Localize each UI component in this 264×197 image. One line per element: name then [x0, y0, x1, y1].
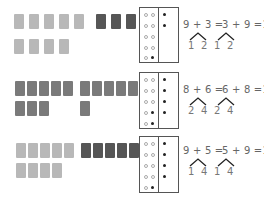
- block: [52, 143, 62, 158]
- block: [40, 163, 50, 178]
- block: [52, 163, 62, 178]
- block: [129, 143, 139, 158]
- block: [28, 143, 38, 158]
- split-part: 4: [201, 166, 207, 177]
- problem-row-3: 9 + 5 = 5 + 9 =14 1 4 1 4: [0, 0, 264, 197]
- open-dot: [151, 164, 155, 168]
- ten-frame: [139, 136, 179, 193]
- open-dot: [144, 175, 148, 179]
- open-dot: [151, 175, 155, 179]
- block: [16, 143, 26, 158]
- split-part: 1: [188, 166, 194, 177]
- block: [81, 143, 91, 158]
- equation-left: 9 + 5 =: [183, 145, 223, 156]
- filled-dot: [151, 186, 154, 189]
- filled-dot: [163, 153, 166, 156]
- block: [28, 163, 38, 178]
- open-dot: [144, 186, 148, 190]
- filled-dot: [163, 164, 166, 167]
- open-dot: [151, 142, 155, 146]
- open-dot: [144, 142, 148, 146]
- block: [16, 163, 26, 178]
- open-dot: [144, 153, 148, 157]
- open-dot: [144, 164, 148, 168]
- split-part: 1: [214, 166, 220, 177]
- block: [64, 143, 74, 158]
- block: [93, 143, 103, 158]
- open-dot: [151, 153, 155, 157]
- frame-divider: [158, 137, 159, 192]
- block: [117, 143, 127, 158]
- filled-dot: [163, 142, 166, 145]
- filled-dot: [163, 175, 166, 178]
- block: [105, 143, 115, 158]
- split-part: 4: [227, 166, 233, 177]
- block: [40, 143, 50, 158]
- equation-right: 5 + 9 =14: [222, 145, 264, 156]
